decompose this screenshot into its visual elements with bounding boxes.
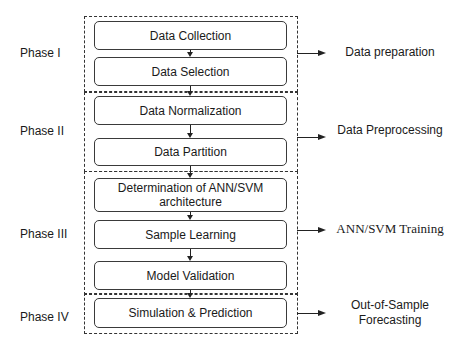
phase-3-label: Phase III [20, 227, 80, 241]
output-forecasting: Out-of-Sample Forecasting [340, 298, 440, 328]
arrow-right-icon [318, 310, 326, 316]
connector-3 [190, 125, 191, 133]
phase-4-label: Phase IV [20, 310, 80, 324]
arrow-down-icon [187, 52, 193, 57]
output-data-preparation: Data preparation [330, 45, 450, 60]
arrow-right-icon [318, 50, 326, 56]
step-simulation-prediction: Simulation & Prediction [94, 298, 287, 328]
arrow-down-icon [187, 256, 193, 261]
arrow-down-icon [187, 293, 193, 298]
arrow-right-icon [318, 134, 326, 140]
step-data-collection: Data Collection [94, 21, 287, 50]
arrow-down-icon [187, 215, 193, 220]
step-sample-learning: Sample Learning [94, 220, 287, 249]
step-data-selection: Data Selection [94, 57, 287, 86]
arrow-down-icon [187, 91, 193, 96]
step-data-partition: Data Partition [94, 138, 287, 166]
connector-4 [190, 166, 191, 173]
output-ann-svm-training: ANN/SVM Training [330, 221, 450, 236]
arrow-down-icon [187, 133, 193, 138]
output-data-preprocessing: Data Preprocessing [330, 123, 450, 138]
phase-2-label: Phase II [20, 124, 80, 138]
arrow-right-icon [318, 227, 326, 233]
step-architecture-determination: Determination of ANN/SVM architecture [94, 178, 287, 212]
arrow-down-icon [187, 173, 193, 178]
phase-1-label: Phase I [20, 46, 80, 60]
connector-6 [190, 249, 191, 256]
step-data-normalization: Data Normalization [94, 96, 287, 125]
step-model-validation: Model Validation [94, 261, 287, 290]
